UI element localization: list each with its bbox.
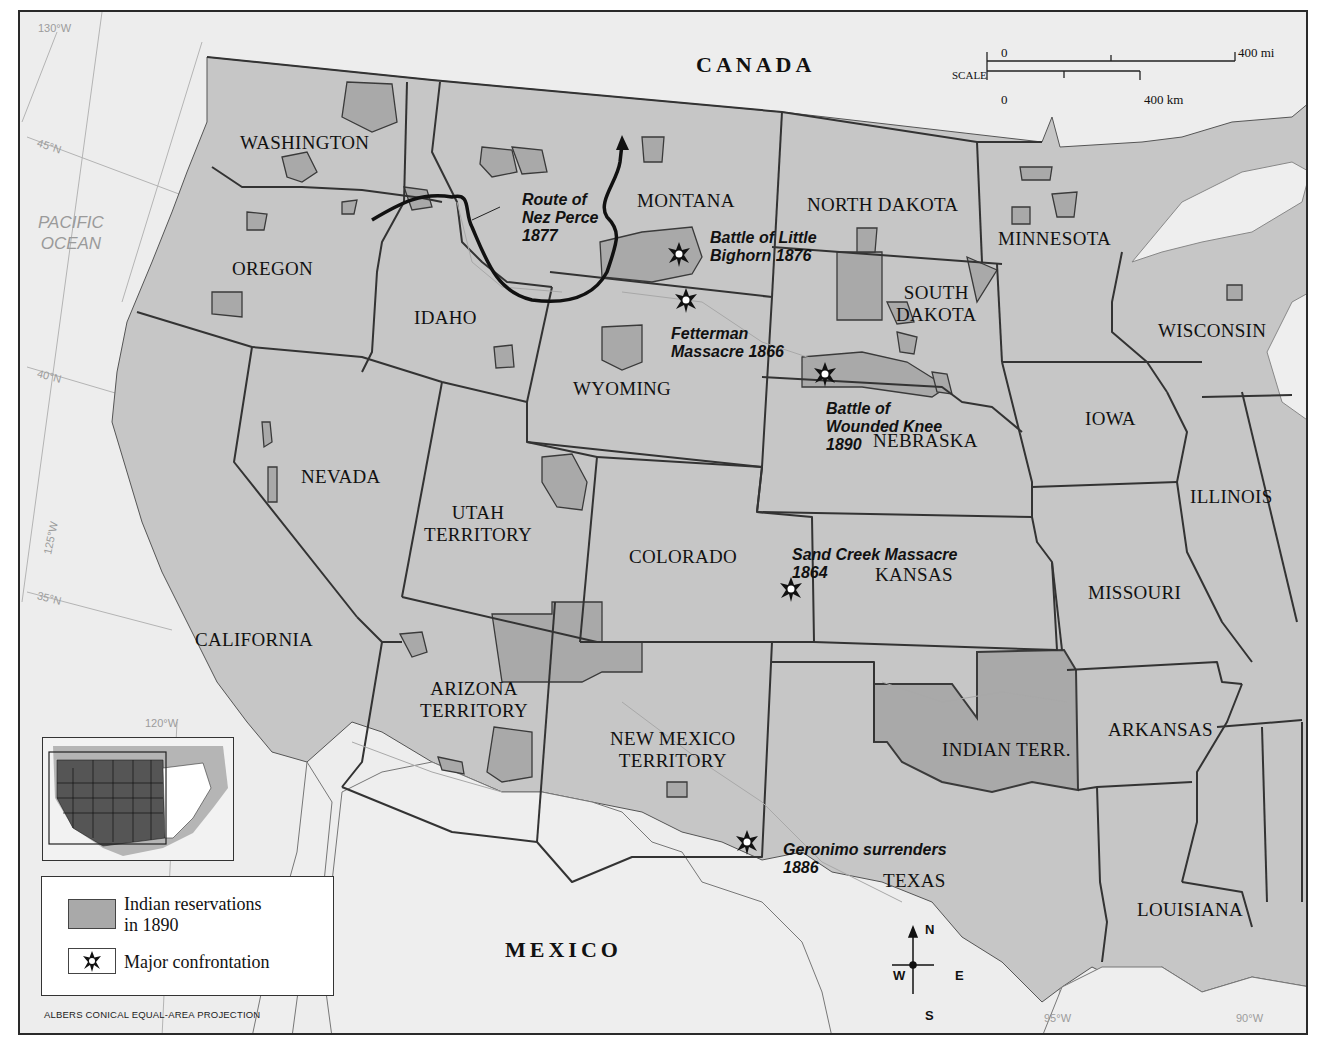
state-label-wisconsin: WISCONSIN — [1158, 320, 1266, 342]
event-label-sand-creek-massacre: Sand Creek Massacre 1864 — [792, 546, 957, 582]
event-label-geronimo-surrenders: Geronimo surrenders 1886 — [783, 841, 947, 877]
state-label-nevada: NEVADA — [301, 466, 381, 488]
scale-km-max: 400 km — [1144, 92, 1183, 108]
compass-rose — [892, 927, 934, 994]
scale-mi-zero: 0 — [1001, 45, 1008, 61]
event-label-wounded-knee: Battle of Wounded Knee 1890 — [826, 400, 942, 454]
state-label-illinois: ILLINOIS — [1190, 486, 1273, 508]
scale-bar — [987, 52, 1235, 80]
state-label-montana: MONTANA — [637, 190, 735, 212]
graticule-label-120w: 120°W — [145, 717, 178, 729]
graticule-label-130w: 130°W — [38, 22, 71, 34]
state-label-washington: WASHINGTON — [240, 132, 369, 154]
inset-map-graphic — [43, 738, 234, 861]
state-label-louisiana: LOUISIANA — [1137, 899, 1243, 921]
state-label-idaho: IDAHO — [414, 307, 477, 329]
state-label-new-mexico-territory: NEW MEXICO TERRITORY — [610, 728, 736, 772]
state-label-south-dakota: SOUTH DAKOTA — [896, 282, 977, 326]
compass-east: E — [955, 968, 964, 983]
legend-confrontation-label: Major confrontation — [124, 952, 269, 973]
reservation-swatch-icon — [68, 899, 116, 929]
map-legend: Indian reservations in 1890 Major confro… — [41, 876, 334, 996]
compass-west: W — [893, 968, 905, 983]
graticule-label-95w: 95°W — [1044, 1012, 1071, 1024]
state-label-arkansas: ARKANSAS — [1108, 719, 1213, 741]
state-label-missouri: MISSOURI — [1088, 582, 1181, 604]
state-label-california: CALIFORNIA — [195, 629, 313, 651]
state-label-wyoming: WYOMING — [573, 378, 671, 400]
state-label-colorado: COLORADO — [629, 546, 737, 568]
state-label-indian-territory: INDIAN TERR. — [942, 739, 1071, 761]
state-label-north-dakota: NORTH DAKOTA — [807, 194, 958, 216]
event-label-little-bighorn: Battle of Little Bighorn 1876 — [710, 229, 817, 265]
event-label-nez-perce-route: Route of Nez Perce 1877 — [522, 191, 599, 245]
scale-label: SCALE — [952, 69, 987, 81]
projection-caption: ALBERS CONICAL EQUAL-AREA PROJECTION — [44, 1009, 260, 1020]
state-label-utah-territory: UTAH TERRITORY — [424, 502, 532, 546]
state-label-oregon: OREGON — [232, 258, 313, 280]
scale-mi-max: 400 mi — [1238, 45, 1274, 61]
legend-reservations-label: Indian reservations in 1890 — [124, 894, 261, 936]
country-label-mexico: MEXICO — [505, 937, 622, 963]
state-label-minnesota: MINNESOTA — [998, 228, 1111, 250]
scale-km-zero: 0 — [1001, 92, 1008, 108]
state-label-iowa: IOWA — [1085, 408, 1136, 430]
country-label-canada: CANADA — [696, 52, 815, 78]
graticule-label-90w: 90°W — [1236, 1012, 1263, 1024]
event-label-fetterman-massacre: Fetterman Massacre 1866 — [671, 325, 784, 361]
state-label-arizona-territory: ARIZONA TERRITORY — [420, 678, 528, 722]
compass-south: S — [925, 1008, 934, 1023]
inset-locator-map — [42, 737, 234, 861]
star-burst-icon — [68, 948, 116, 974]
compass-north: N — [925, 922, 934, 937]
water-label-pacific-ocean: PACIFIC OCEAN — [38, 212, 104, 254]
